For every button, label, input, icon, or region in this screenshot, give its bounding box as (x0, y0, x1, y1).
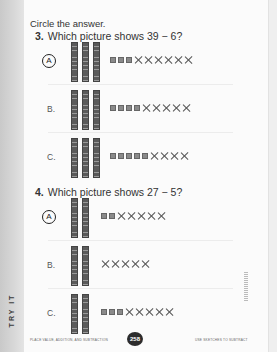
option-label: B. (47, 104, 55, 114)
page-edge (268, 0, 277, 352)
tens-rods (71, 138, 100, 178)
tens-rods (71, 246, 89, 286)
option-label: A (42, 210, 56, 224)
crossed-out-icon (121, 260, 129, 268)
ten-rod-icon (82, 42, 89, 82)
crossed-out-icon (145, 308, 153, 316)
question-3: 3.Which picture shows 39 − 6? (35, 30, 182, 42)
page-number-badge: 258 (127, 332, 143, 346)
crossed-out-icon (162, 104, 170, 112)
crossed-out-icon (172, 104, 180, 112)
ones-cubes (110, 104, 190, 112)
one-cube-icon (126, 153, 132, 159)
crossed-out-icon (164, 56, 172, 64)
option-label: A (42, 54, 56, 68)
question-4: 4.Which picture shows 27 − 5? (35, 186, 182, 198)
one-cube-icon (110, 105, 116, 111)
ten-rod-icon (71, 42, 78, 82)
one-cube-icon (109, 309, 115, 315)
instruction-text: Circle the answer. (30, 18, 106, 29)
crossed-out-icon (131, 260, 139, 268)
ten-rod-icon (71, 246, 78, 286)
crossed-out-icon (117, 212, 125, 220)
ten-rod-icon (82, 90, 89, 130)
question-prompt: Which picture shows 27 − 5? (48, 186, 183, 198)
option-divider (48, 132, 233, 133)
ten-rod-icon (82, 138, 89, 178)
option-divider (48, 288, 233, 289)
tens-rods (71, 198, 89, 238)
copyright-vertical-text (244, 272, 248, 302)
question-number: 4. (35, 186, 44, 198)
question-number: 3. (35, 30, 44, 42)
crossed-out-icon (184, 56, 192, 64)
one-cube-icon (126, 105, 132, 111)
ten-rod-icon (93, 138, 100, 178)
footer-lesson-title: USE SKETCHES TO SUBTRACT (195, 338, 248, 342)
crossed-out-icon (125, 308, 133, 316)
crossed-out-icon (142, 104, 150, 112)
crossed-out-icon (137, 212, 145, 220)
side-tab-label: TRY IT (9, 293, 16, 327)
one-cube-icon (110, 153, 116, 159)
ten-rod-icon (82, 198, 89, 238)
one-cube-icon (117, 309, 123, 315)
option-label: C. (47, 308, 56, 318)
one-cube-icon (101, 309, 107, 315)
crossed-out-icon (180, 152, 188, 160)
one-cube-icon (118, 105, 124, 111)
one-cube-icon (118, 153, 124, 159)
option-divider (48, 84, 233, 85)
one-cube-icon (134, 153, 140, 159)
option-label: B. (47, 260, 55, 270)
ten-rod-icon (71, 90, 78, 130)
crossed-out-icon (170, 152, 178, 160)
ones-cubes (110, 152, 188, 160)
one-cube-icon (126, 57, 132, 63)
one-cube-icon (109, 213, 115, 219)
side-tab: TRY IT (4, 290, 20, 330)
ones-cubes (110, 56, 192, 64)
crossed-out-icon (141, 260, 149, 268)
ones-cubes (101, 260, 149, 268)
one-cube-icon (142, 153, 148, 159)
crossed-out-icon (135, 308, 143, 316)
crossed-out-icon (155, 308, 163, 316)
ones-cubes (101, 308, 173, 316)
crossed-out-icon (127, 212, 135, 220)
crossed-out-icon (174, 56, 182, 64)
ten-rod-icon (71, 138, 78, 178)
worksheet-page: TRY IT Circle the answer. 3.Which pictur… (0, 0, 268, 352)
tens-rods (71, 42, 100, 82)
crossed-out-icon (182, 104, 190, 112)
one-cube-icon (101, 213, 107, 219)
crossed-out-icon (134, 56, 142, 64)
crossed-out-icon (157, 212, 165, 220)
ten-rod-icon (82, 246, 89, 286)
crossed-out-icon (152, 104, 160, 112)
crossed-out-icon (101, 260, 109, 268)
crossed-out-icon (154, 56, 162, 64)
crossed-out-icon (150, 152, 158, 160)
crossed-out-icon (111, 260, 119, 268)
footer-unit-title: PLACE VALUE, ADDITION, AND SUBTRACTION (30, 338, 108, 342)
crossed-out-icon (147, 212, 155, 220)
option-label: C. (47, 152, 56, 162)
ten-rod-icon (82, 294, 89, 334)
ten-rod-icon (71, 294, 78, 334)
one-cube-icon (118, 57, 124, 63)
crossed-out-icon (144, 56, 152, 64)
one-cube-icon (110, 57, 116, 63)
option-divider (48, 240, 233, 241)
tens-rods (71, 294, 89, 334)
tens-rods (71, 90, 100, 130)
ones-cubes (101, 212, 165, 220)
ten-rod-icon (93, 90, 100, 130)
ten-rod-icon (93, 42, 100, 82)
crossed-out-icon (165, 308, 173, 316)
ten-rod-icon (71, 198, 78, 238)
one-cube-icon (134, 105, 140, 111)
crossed-out-icon (160, 152, 168, 160)
question-prompt: Which picture shows 39 − 6? (48, 30, 183, 42)
